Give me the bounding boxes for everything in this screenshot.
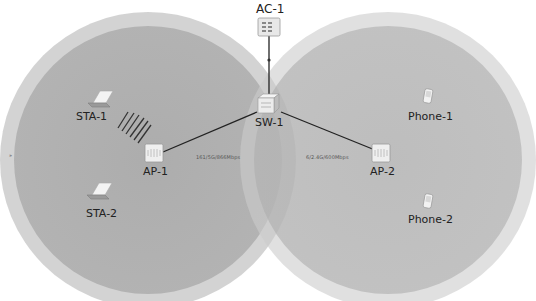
switch-icon[interactable] [258, 94, 279, 113]
access-controller-icon[interactable] [258, 18, 280, 36]
access-point-1-icon[interactable] [145, 144, 163, 162]
node-label-ap2: AP-2 [370, 165, 395, 178]
node-label-ac1: AC-1 [256, 2, 284, 16]
topology-canvas [0, 0, 536, 301]
node-label-ap1: AP-1 [143, 165, 168, 178]
node-label-phone2: Phone-2 [408, 213, 453, 226]
link-label-sw1-ap2: 6/2.4G/600Mbps [306, 154, 349, 160]
access-point-2-icon[interactable] [372, 144, 390, 162]
node-label-sta1: STA-1 [76, 110, 107, 123]
edge-marker: » [9, 152, 12, 158]
node-label-phone1: Phone-1 [408, 110, 453, 123]
node-label-sw1: SW-1 [255, 116, 283, 129]
node-label-sta2: STA-2 [86, 207, 117, 220]
link-label-sw1-ap1: 161/5G/866Mbps [196, 154, 240, 160]
